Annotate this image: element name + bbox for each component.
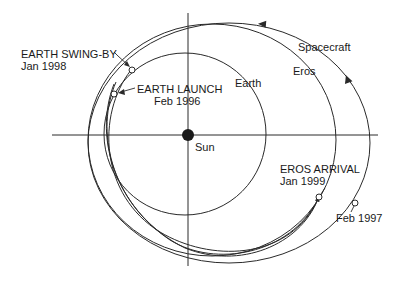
trajectory-diagram: Sun EARTH SWING-BY Jan 1998 EARTH LAUNCH… bbox=[0, 0, 399, 283]
sun-label: Sun bbox=[195, 141, 215, 153]
earth-swing-by-date: Jan 1998 bbox=[21, 60, 66, 72]
eros-arrival-leader bbox=[321, 188, 325, 194]
eros-orbit-label: Eros bbox=[293, 65, 316, 77]
feb-1997-marker[interactable] bbox=[352, 200, 358, 206]
earth-launch-title: EARTH LAUNCH bbox=[137, 83, 222, 95]
feb-1997-date: Feb 1997 bbox=[336, 212, 382, 224]
earth-swing-by-marker[interactable] bbox=[129, 67, 135, 73]
eros-orbit bbox=[88, 24, 336, 256]
spacecraft-trajectory-2 bbox=[109, 70, 315, 251]
eros-arrival-marker[interactable] bbox=[316, 194, 322, 200]
eros-arrival-title: EROS ARRIVAL bbox=[280, 163, 360, 175]
spacecraft-orbit-label: Spacecraft bbox=[298, 41, 351, 53]
earth-orbit-label: Earth bbox=[235, 77, 261, 89]
earth-launch-date: Feb 1996 bbox=[154, 95, 200, 107]
eros-arrival-date: Jan 1999 bbox=[280, 175, 325, 187]
sun-icon bbox=[182, 129, 194, 141]
earth-launch-marker[interactable] bbox=[111, 91, 117, 97]
earth-swing-by-title: EARTH SWING-BY bbox=[21, 48, 117, 60]
